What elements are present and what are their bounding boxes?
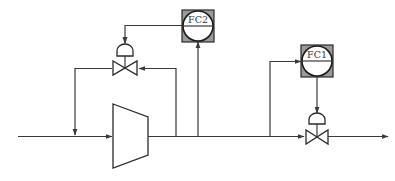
fc1-label: FC1 (307, 49, 327, 60)
discharge-valve-icon (306, 113, 328, 144)
compressor-icon (113, 104, 148, 168)
recycle-valve-icon (113, 44, 137, 75)
fc2-signal-line (125, 26, 184, 44)
fc1-controller: FC1 (301, 45, 333, 77)
fc1-measurement-line (270, 62, 301, 137)
process-diagram: FC2 FC1 (0, 0, 395, 181)
fc2-controller: FC2 (182, 10, 214, 42)
fc2-label: FC2 (188, 14, 208, 25)
